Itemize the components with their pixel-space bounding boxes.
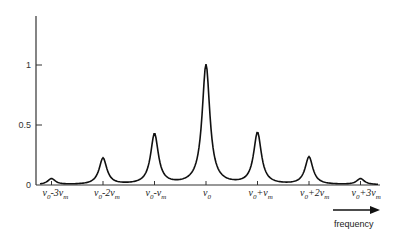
x-tick-label: ν0-3νm (43, 187, 69, 201)
x-tick-label: ν0 (203, 187, 211, 201)
x-tick-label: ν0+νm (249, 187, 273, 201)
y-tick-label: 0.5 (18, 120, 31, 130)
y-tick-label: 0 (26, 180, 31, 190)
x-tick-label: ν0-2νm (94, 187, 120, 201)
x-tick-label: ν0+3νm (352, 187, 381, 201)
x-tick-label: ν0-νm (146, 187, 167, 201)
x-axis-label: frequency (334, 219, 374, 229)
spectrum-chart: 00.51 ν0-3νmν0-2νmν0-νmν0ν0+νmν0+2νmν0+3… (0, 0, 397, 233)
y-tick-label: 1 (26, 60, 31, 70)
x-ticks: ν0-3νmν0-2νmν0-νmν0ν0+νmν0+2νmν0+3νm (43, 181, 381, 201)
spectrum-line (40, 64, 378, 184)
frequency-arrow (333, 206, 380, 214)
x-tick-label: ν0+2νm (300, 187, 329, 201)
y-ticks: 00.51 (18, 60, 42, 190)
